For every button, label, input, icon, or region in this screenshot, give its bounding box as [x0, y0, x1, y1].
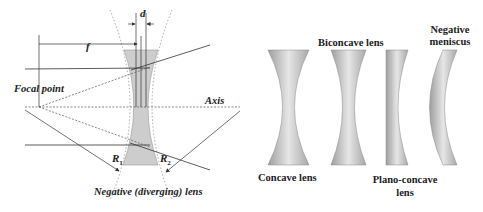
negative-meniscus-label-2: meniscus	[420, 36, 480, 48]
r1-curvature-arc	[110, 10, 130, 200]
lens-types	[268, 50, 457, 165]
r2-label: R2	[160, 152, 171, 169]
concave-lens-label: Concave lens	[258, 172, 317, 184]
axis-label: Axis	[205, 95, 224, 107]
d-label: d	[140, 7, 146, 19]
negative-lens-caption: Negative (diverging) lens	[94, 186, 202, 198]
r2-curvature-arc	[152, 10, 172, 200]
plano-concave-lens-shape	[386, 50, 408, 165]
lens-diagram-figure: d f Focal point Axis R1 R2 Negative (div…	[0, 0, 483, 212]
concave-lens-shape	[268, 50, 309, 165]
focal-point-label: Focal point	[14, 83, 64, 95]
biconcave-lens-label: Biconcave lens	[318, 37, 384, 49]
r2-subscript: 2	[167, 159, 171, 167]
biconcave-lens-shape	[331, 50, 366, 165]
negative-meniscus-label-1: Negative	[420, 24, 480, 36]
r1-label: R1	[112, 152, 123, 169]
plano-concave-lens-label-2: lens	[372, 187, 438, 199]
negative-meniscus-lens-shape	[430, 50, 458, 165]
f-label: f	[86, 40, 90, 52]
r1-subscript: 1	[119, 159, 123, 167]
plano-concave-lens-label-1: Plano-concave	[372, 174, 438, 186]
